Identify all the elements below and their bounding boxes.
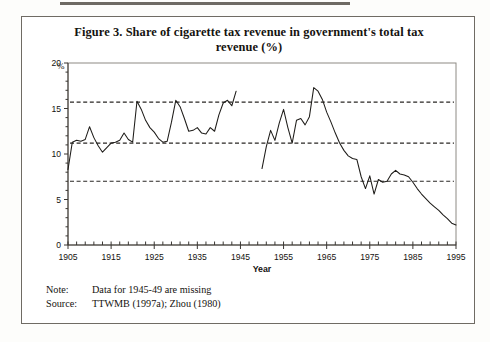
chart-plot-area: 0510152019051915192519351945195519651975…	[32, 57, 466, 285]
source-row: Source: TTWMB (1997a); Zhou (1980)	[46, 297, 446, 311]
figure-title: Figure 3. Share of cigarette tax revenue…	[52, 25, 446, 55]
svg-text:10: 10	[51, 149, 61, 159]
svg-text:1975: 1975	[360, 252, 379, 262]
svg-text:1985: 1985	[403, 252, 422, 262]
source-label: Source:	[46, 297, 92, 311]
source-text: TTWMB (1997a); Zhou (1980)	[92, 297, 446, 311]
svg-text:1915: 1915	[102, 252, 121, 262]
svg-text:1965: 1965	[317, 252, 336, 262]
svg-text:0: 0	[56, 240, 61, 250]
line-chart: 0510152019051915192519351945195519651975…	[32, 57, 466, 285]
svg-text:15: 15	[51, 104, 61, 114]
svg-text:20: 20	[51, 58, 61, 68]
figure-page: Figure 3. Share of cigarette tax revenue…	[0, 0, 490, 342]
svg-text:1995: 1995	[446, 252, 465, 262]
note-text: Data for 1945-49 are missing	[92, 283, 446, 297]
svg-text:1935: 1935	[188, 252, 207, 262]
page-top-rule	[60, 2, 350, 5]
figure-box: Figure 3. Share of cigarette tax revenue…	[21, 16, 475, 324]
svg-text:1905: 1905	[58, 252, 77, 262]
svg-text:1945: 1945	[231, 252, 250, 262]
svg-text:Year: Year	[253, 264, 272, 274]
figure-notes: Note: Data for 1945-49 are missing Sourc…	[46, 283, 446, 310]
svg-text:5: 5	[56, 195, 61, 205]
svg-text:1925: 1925	[145, 252, 164, 262]
svg-text:1955: 1955	[274, 252, 293, 262]
note-row: Note: Data for 1945-49 are missing	[46, 283, 446, 297]
note-label: Note:	[46, 283, 92, 297]
